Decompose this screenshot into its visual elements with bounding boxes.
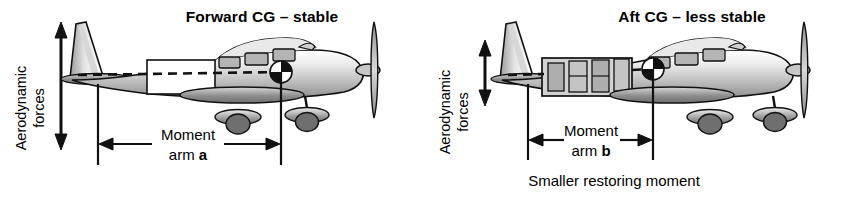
aircraft-silhouette-forward [61, 22, 380, 134]
aero-label-line2: forces [455, 92, 471, 132]
moment-arm-label-line1: Moment [564, 122, 619, 139]
propeller [371, 22, 378, 118]
forward-cg-illustration: Forward CG – stable Aerodynamic forces [0, 0, 424, 197]
diagram-canvas: Forward CG – stable Aerodynamic forces [0, 0, 848, 197]
moment-arm-label-line2: arm a [169, 146, 208, 163]
panel-title-forward: Forward CG – stable [186, 8, 339, 25]
wing [180, 87, 304, 103]
cg-reference-dashed-line [508, 74, 544, 75]
aerodynamic-forces-label-forward: Aerodynamic forces [13, 66, 47, 151]
main-landing-gear [215, 110, 261, 135]
panel-forward-cg: Forward CG – stable Aerodynamic forces [0, 0, 424, 197]
aircraft-silhouette-aft [491, 22, 810, 134]
moment-arm-symbol: a [199, 146, 208, 163]
moment-arm-prefix: arm [571, 142, 601, 159]
caption-smaller-restoring-moment: Smaller restoring moment [528, 172, 701, 189]
main-landing-gear [687, 110, 733, 135]
aerodynamic-force-arrow-aft [479, 40, 491, 106]
aerodynamic-forces-label-aft: Aerodynamic forces [437, 70, 471, 155]
moment-arm-label-line2: arm b [571, 142, 610, 159]
wing [610, 87, 734, 103]
moment-arm-label-line1: Moment [161, 126, 216, 143]
aero-label-line1: Aerodynamic [13, 66, 29, 151]
aerodynamic-force-arrow-forward [55, 22, 67, 150]
panel-aft-cg: Aft CG – less stable Aerodynamic forces [424, 0, 848, 197]
propeller [801, 22, 808, 118]
moment-arm-symbol: b [601, 142, 610, 159]
moment-arm-prefix: arm [169, 146, 199, 163]
aero-label-line2: forces [31, 88, 47, 128]
aft-cg-illustration: Aft CG – less stable Aerodynamic forces [424, 0, 848, 197]
nose-landing-gear [753, 96, 797, 132]
aero-label-line1: Aerodynamic [437, 70, 453, 155]
nose-landing-gear [285, 96, 329, 132]
panel-title-aft: Aft CG – less stable [618, 8, 766, 25]
